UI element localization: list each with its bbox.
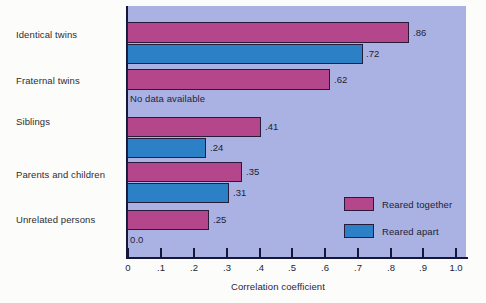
legend-label-reared-apart: Reared apart bbox=[382, 226, 439, 237]
x-tick-2 bbox=[193, 248, 195, 257]
bar-value-identical-twins-reared-apart: .72 bbox=[366, 48, 380, 59]
bar-value-parents-and-children-reared-apart: .31 bbox=[233, 187, 247, 198]
bar-fraternal-twins-reared-together bbox=[127, 69, 330, 90]
bar-value-identical-twins-reared-together: .86 bbox=[413, 27, 427, 38]
x-tick-label-6: .6 bbox=[321, 262, 329, 273]
x-tick-label-8: .8 bbox=[387, 262, 395, 273]
x-axis-line bbox=[126, 257, 468, 259]
x-tick-6 bbox=[324, 248, 326, 257]
bar-identical-twins-reared-apart bbox=[127, 44, 363, 64]
bar-siblings-reared-apart bbox=[127, 138, 206, 158]
x-tick-8 bbox=[390, 248, 392, 257]
legend-label-reared-together: Reared together bbox=[382, 199, 452, 210]
legend-item-reared-apart: Reared apart bbox=[344, 221, 452, 241]
bar-identical-twins-reared-together bbox=[127, 22, 409, 43]
x-tick-label-10: 1.0 bbox=[449, 262, 462, 273]
bar-parents-and-children-reared-together bbox=[127, 162, 242, 182]
x-axis-title-wrapper: Correlation coefficient bbox=[0, 281, 486, 292]
legend: Reared together Reared apart bbox=[344, 194, 452, 248]
legend-swatch-reared-apart bbox=[344, 224, 374, 238]
bar-value-parents-and-children-reared-together: .35 bbox=[246, 166, 260, 177]
bar-parents-and-children-reared-apart bbox=[127, 183, 229, 203]
x-tick-label-2: .2 bbox=[190, 262, 198, 273]
x-tick-label-1: .1 bbox=[157, 262, 165, 273]
bar-value-fraternal-twins-reared-together: .62 bbox=[334, 74, 348, 85]
x-axis-title: Correlation coefficient bbox=[161, 281, 325, 292]
x-tick-label-0: 0 bbox=[125, 262, 130, 273]
x-tick-4 bbox=[259, 248, 261, 257]
x-tick-label-5: .5 bbox=[288, 262, 296, 273]
bar-value-unrelated-persons-reared-together: .25 bbox=[213, 214, 227, 225]
x-tick-7 bbox=[357, 248, 359, 257]
chart-figure: Identical twins Fraternal twins Siblings… bbox=[0, 0, 486, 303]
bar-value-siblings-reared-apart: .24 bbox=[210, 142, 224, 153]
legend-item-reared-together: Reared together bbox=[344, 194, 452, 214]
x-tick-label-4: .4 bbox=[256, 262, 264, 273]
zero-annotation-unrelated-persons: 0.0 bbox=[130, 234, 144, 245]
x-tick-label-7: .7 bbox=[354, 262, 362, 273]
bar-siblings-reared-together bbox=[127, 117, 261, 137]
bar-value-siblings-reared-together: .41 bbox=[265, 121, 279, 132]
legend-swatch-reared-together bbox=[344, 197, 374, 211]
x-tick-label-9: .9 bbox=[419, 262, 427, 273]
x-tick-5 bbox=[291, 248, 293, 257]
x-tick-1 bbox=[160, 248, 162, 257]
no-data-annotation-fraternal-twins: No data available bbox=[130, 93, 205, 104]
x-tick-0 bbox=[127, 248, 129, 257]
x-tick-10 bbox=[455, 248, 457, 257]
x-tick-label-3: .3 bbox=[223, 262, 231, 273]
x-tick-9 bbox=[422, 248, 424, 257]
x-tick-3 bbox=[226, 248, 228, 257]
bar-unrelated-persons-reared-together bbox=[127, 210, 209, 230]
